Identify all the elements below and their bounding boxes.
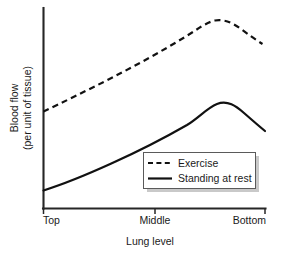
legend-label-exercise: Exercise [178, 157, 218, 169]
x-tick-label-bottom: Bottom [233, 214, 267, 226]
legend: Exercise Standing at rest [144, 153, 260, 193]
x-tick-label-top: Top [43, 214, 60, 226]
series-line-exercise [44, 20, 263, 111]
legend-label-standing-at-rest: Standing at rest [178, 172, 252, 184]
y-axis-title-line2: (per unit of tissue) [21, 66, 33, 150]
blood-flow-lung-level-chart: Top Middle Bottom Lung level Blood flow … [0, 0, 291, 257]
figure-container: Top Middle Bottom Lung level Blood flow … [0, 0, 291, 257]
y-axis-title-line1: Blood flow [8, 83, 20, 132]
x-axis-title: Lung level [126, 235, 174, 247]
x-tick-label-middle: Middle [140, 214, 171, 226]
